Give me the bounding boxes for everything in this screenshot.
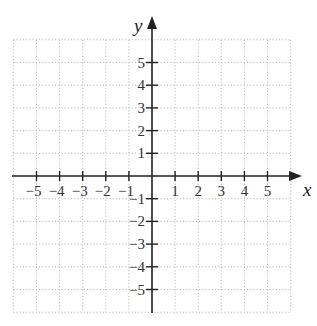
x-tick-label: 3 xyxy=(218,183,226,199)
y-tick-label: −2 xyxy=(129,213,145,229)
y-tick-label: −4 xyxy=(129,259,145,275)
y-axis-label: y xyxy=(132,15,143,36)
x-tick-label: 2 xyxy=(194,183,202,199)
y-tick-label: −1 xyxy=(129,191,145,207)
y-tick-label: −5 xyxy=(129,282,145,298)
y-tick-label: 5 xyxy=(138,55,146,71)
axes xyxy=(12,16,302,313)
y-tick-label: 4 xyxy=(138,77,146,93)
x-tick-label: −4 xyxy=(49,183,65,199)
y-tick-label: 1 xyxy=(138,145,146,161)
x-tick-label: 4 xyxy=(241,183,249,199)
x-tick-label: 1 xyxy=(171,183,179,199)
x-tick-label: −5 xyxy=(26,183,42,199)
y-tick-label: −3 xyxy=(129,236,145,252)
x-tick-label: −3 xyxy=(72,183,88,199)
y-tick-label: 2 xyxy=(138,123,146,139)
x-axis-label: x xyxy=(302,179,312,200)
x-axis-arrow-icon xyxy=(289,171,302,181)
y-axis-arrow-icon xyxy=(147,16,157,29)
x-tick-label: −2 xyxy=(95,183,111,199)
x-tick-label: 5 xyxy=(264,183,272,199)
coordinate-plane: −5−4−3−2−11234554321−1−2−3−4−5 x y xyxy=(0,0,317,326)
y-tick-label: 3 xyxy=(138,100,146,116)
